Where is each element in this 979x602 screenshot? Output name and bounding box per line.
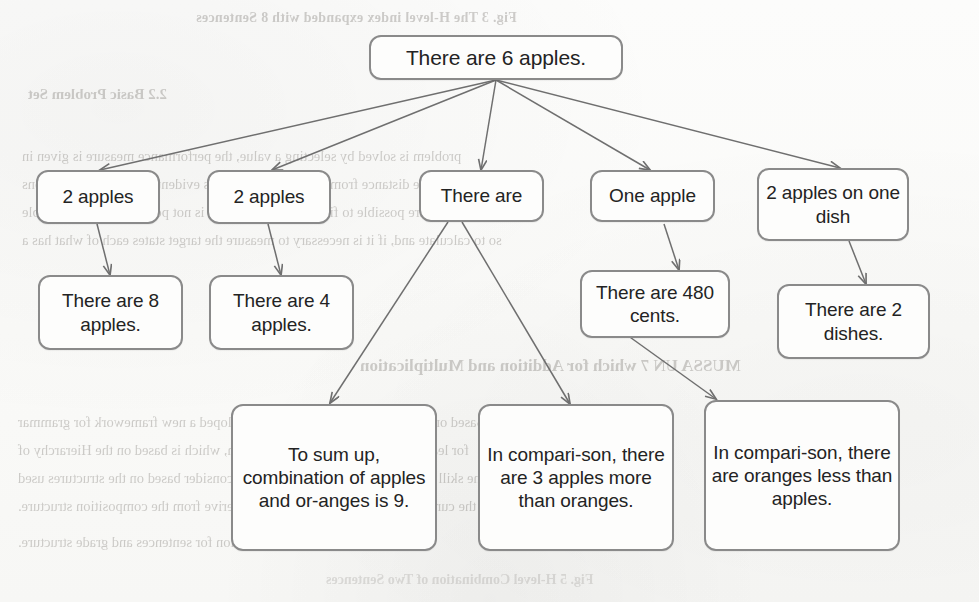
node-one-apple[interactable]: One apple [590, 170, 715, 222]
node-there-are-4-apples[interactable]: There are 4 apples. [209, 275, 354, 350]
node-comparison-apples-more[interactable]: In compari-son, there are 3 apples more … [478, 404, 674, 551]
node-comparison-apples-more-label: In compari-son, there are 3 apples more … [480, 443, 672, 513]
node-there-are-label: There are [437, 184, 526, 207]
node-there-are-4-apples-label: There are 4 apples. [211, 289, 352, 335]
node-there-are-480-cents[interactable]: There are 480 cents. [580, 270, 730, 338]
node-there-are-8-apples-label: There are 8 apples. [40, 289, 181, 335]
node-sum-up-combination-label: To sum up, combination of apples and or-… [233, 443, 435, 513]
node-there-are[interactable]: There are [419, 170, 544, 222]
node-2apples-on-one-dish-label: 2 apples on one dish [759, 181, 907, 227]
node-2apples-left[interactable]: 2 apples [36, 170, 160, 224]
node-one-apple-label: One apple [605, 184, 700, 207]
node-there-are-8-apples[interactable]: There are 8 apples. [38, 275, 183, 350]
node-sum-up-combination[interactable]: To sum up, combination of apples and or-… [231, 404, 437, 551]
node-comparison-oranges-less-label: In compari-son, there are oranges less t… [706, 441, 898, 511]
node-root-label: There are 6 apples. [402, 45, 590, 71]
node-there-are-2-dishes-label: There are 2 dishes. [779, 298, 928, 344]
node-2apples-on-one-dish[interactable]: 2 apples on one dish [757, 168, 909, 241]
node-there-are-2-dishes[interactable]: There are 2 dishes. [777, 284, 930, 359]
node-comparison-oranges-less[interactable]: In compari-son, there are oranges less t… [704, 400, 900, 551]
node-2apples-right-label: 2 apples [229, 185, 308, 208]
node-2apples-left-label: 2 apples [58, 185, 137, 208]
node-root[interactable]: There are 6 apples. [369, 35, 623, 80]
node-there-are-480-cents-label: There are 480 cents. [582, 281, 728, 327]
node-2apples-right[interactable]: 2 apples [207, 170, 331, 224]
